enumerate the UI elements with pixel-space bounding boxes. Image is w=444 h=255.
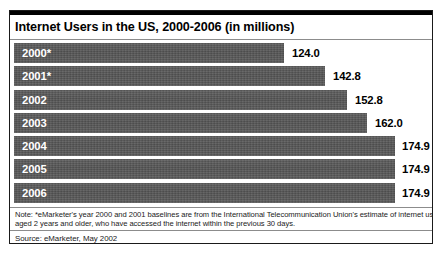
- bar-category-label: 2004: [22, 136, 47, 156]
- bar-value-label: 174.9: [402, 159, 430, 179]
- title-bottom-rule: [10, 39, 433, 40]
- bar-value-label: 152.8: [355, 90, 383, 110]
- bar-2006[interactable]: 2006: [14, 183, 395, 203]
- bar-row: 2006 174.9: [10, 183, 433, 203]
- note-line-1: Note: *eMarketer's year 2000 and 2001 ba…: [15, 210, 429, 219]
- bar-category-label: 2005: [22, 159, 47, 179]
- bar-row: 2004 174.9: [10, 136, 433, 156]
- bar-row: 2001* 142.8: [10, 66, 433, 86]
- bar-value-label: 124.0: [292, 43, 320, 63]
- note-line-2: aged 2 years and older, who have accesse…: [15, 219, 429, 228]
- note-divider-rule: [10, 207, 433, 208]
- bar-category-label: 2000*: [22, 43, 51, 63]
- chart-note: Note: *eMarketer's year 2000 and 2001 ba…: [15, 210, 429, 229]
- bar-2001[interactable]: 2001*: [14, 66, 325, 86]
- bar-category-label: 2001*: [22, 66, 51, 86]
- chart-container: Internet Users in the US, 2000-2006 (in …: [9, 10, 433, 244]
- bar-value-label: 142.8: [333, 66, 361, 86]
- chart-title: Internet Users in the US, 2000-2006 (in …: [15, 17, 427, 37]
- bar-2005[interactable]: 2005: [14, 159, 395, 179]
- bar-category-label: 2002: [22, 90, 47, 110]
- bar-value-label: 174.9: [402, 183, 430, 203]
- bar-2003[interactable]: 2003: [14, 113, 367, 133]
- bar-row: 2002 152.8: [10, 90, 433, 110]
- bar-2004[interactable]: 2004: [14, 136, 395, 156]
- bar-row: 2003 162.0: [10, 113, 433, 133]
- source-divider-rule: [10, 230, 433, 231]
- bar-2002[interactable]: 2002: [14, 90, 347, 110]
- bar-2000[interactable]: 2000*: [14, 43, 284, 63]
- bar-category-label: 2003: [22, 113, 47, 133]
- bar-value-label: 174.9: [402, 136, 430, 156]
- bar-row: 2005 174.9: [10, 159, 433, 179]
- bar-category-label: 2006: [22, 183, 47, 203]
- title-top-rule: [10, 11, 433, 15]
- bar-value-label: 162.0: [375, 113, 403, 133]
- bar-row: 2000* 124.0: [10, 43, 433, 63]
- chart-source: Source: eMarketer, May 2002: [15, 234, 117, 244]
- bar-chart-plot-area: 2000* 124.0 2001* 142.8 2002 152.8 2003 …: [10, 43, 433, 206]
